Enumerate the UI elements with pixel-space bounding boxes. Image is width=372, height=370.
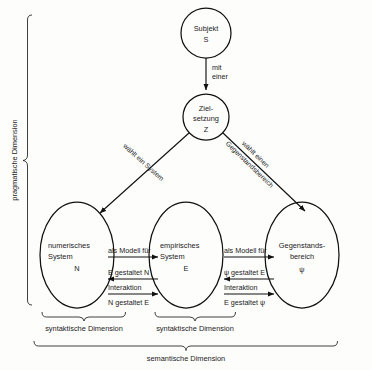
node-gegenstandsbereich-line1: Gegenstands- xyxy=(279,241,326,250)
diagram-page: pragmatische Dimension Subjekt S mit ein… xyxy=(0,0,372,370)
edge-ne-forward-label: N gestaltet E xyxy=(108,298,149,307)
node-empirisches-system-line2: System xyxy=(160,252,185,261)
edge-eg-forward-label: E gestaltet ψ xyxy=(224,298,265,307)
node-gegenstandsbereich-line3: ψ xyxy=(299,265,304,274)
edge-zielsetzung-to-gegenstandsbereich: wählt einen Gegenstandsbereich xyxy=(223,133,305,211)
edges-numerisch-empirisch: als Modell für E gestaltet N Interaktion… xyxy=(108,246,158,307)
semiotic-dimensions-diagram: pragmatische Dimension Subjekt S mit ein… xyxy=(0,0,372,370)
edge-subjekt-to-zielsetzung: mit einer xyxy=(206,58,229,90)
pragmatic-dimension-label: pragmatische Dimension xyxy=(10,119,19,200)
edges-empirisch-gegenstand: als Modell für ψ gestaltet E Interaktion… xyxy=(224,246,274,307)
node-empirisches-system-line3: E xyxy=(184,264,189,273)
semantic-dimension-brace xyxy=(34,341,338,351)
syntactic-dimension-left-brace xyxy=(42,312,126,321)
edge-eg-back-label: ψ gestaltet E xyxy=(224,268,265,277)
edge-subjekt-ziel-label-line2: einer xyxy=(212,72,229,81)
node-numerisches-system-line1: numerisches xyxy=(48,241,90,250)
node-gegenstandsbereich: Gegenstands- bereich ψ xyxy=(265,202,339,308)
syntactic-dimension-left-label: syntaktische Dimension xyxy=(45,324,123,333)
node-zielsetzung-line2: setzung xyxy=(193,114,219,123)
syntactic-dimension-right-brace xyxy=(155,312,236,321)
node-empirisches-system-line1: empirisches xyxy=(160,241,200,250)
edge-ziel-numerisch-label: wählt ein System xyxy=(121,141,166,183)
node-zielsetzung-line1: Ziel- xyxy=(199,104,214,113)
node-subjekt: Subjekt S xyxy=(181,8,231,58)
syntactic-dimension-right-label: syntaktische Dimension xyxy=(156,324,234,333)
node-gegenstandsbereich-line2: bereich xyxy=(290,252,314,261)
node-empirisches-system: empirisches System E xyxy=(149,202,223,308)
node-subjekt-line1: Subjekt xyxy=(194,24,219,33)
semantic-dimension-label: semantische Dimension xyxy=(147,354,225,363)
node-numerisches-system-line3: N xyxy=(74,264,79,273)
edge-ne-interaktion-label: Interaktion xyxy=(108,283,142,292)
node-numerisches-system: numerisches System N xyxy=(40,202,114,308)
node-subjekt-line2: S xyxy=(204,35,209,44)
edge-ne-back-label: E gestaltet N xyxy=(108,268,149,277)
edge-subjekt-ziel-label-line1: mit xyxy=(212,63,222,72)
pragmatic-dimension-brace xyxy=(23,15,32,305)
edge-zielsetzung-to-numerisches-system: wählt ein System xyxy=(100,133,189,213)
node-zielsetzung: Ziel- setzung Z xyxy=(183,94,229,140)
node-zielsetzung-line3: Z xyxy=(204,125,209,134)
edge-ne-model-label: als Modell für xyxy=(108,246,151,255)
edge-eg-interaktion-label: Interaktion xyxy=(224,283,258,292)
edge-eg-model-label: als Modell für xyxy=(224,246,267,255)
node-numerisches-system-line2: System xyxy=(48,252,73,261)
